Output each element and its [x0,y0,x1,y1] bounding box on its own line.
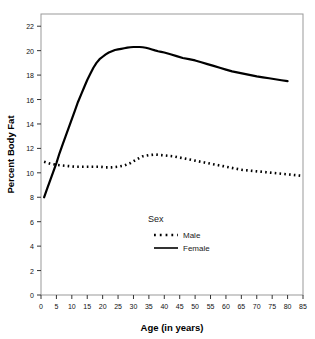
percent-body-fat-chart: 0510152025303540455055606570758085024681… [0,0,315,339]
x-tick-label: 30 [130,303,138,310]
y-tick-label: 6 [30,219,34,226]
x-tick-label: 5 [54,303,58,310]
y-tick-label: 10 [26,170,34,177]
x-tick-label: 70 [253,303,261,310]
y-tick-label: 22 [26,23,34,30]
legend-title: Sex [148,214,164,224]
y-tick-label: 12 [26,145,34,152]
x-tick-label: 15 [83,303,91,310]
y-tick-label: 8 [30,194,34,201]
series-line-female [44,47,288,197]
y-tick-label: 0 [30,292,34,299]
plot-frame [41,14,303,295]
x-tick-label: 35 [145,303,153,310]
x-tick-label: 55 [207,303,215,310]
y-tick-label: 16 [26,97,34,104]
y-tick-label: 20 [26,48,34,55]
x-axis-title: Age (in years) [141,322,204,333]
x-tick-label: 20 [99,303,107,310]
x-tick-label: 65 [237,303,245,310]
y-axis-title: Percent Body Fat [5,115,16,194]
legend-label-male: Male [183,231,201,240]
x-tick-label: 60 [222,303,230,310]
y-tick-label: 2 [30,268,34,275]
legend-label-female: Female [183,244,210,253]
y-tick-label: 4 [30,243,34,250]
x-tick-label: 25 [114,303,122,310]
y-tick-label: 14 [26,121,34,128]
x-tick-label: 80 [284,303,292,310]
x-tick-label: 45 [176,303,184,310]
x-tick-label: 40 [160,303,168,310]
x-tick-label: 75 [268,303,276,310]
x-tick-label: 0 [39,303,43,310]
y-tick-label: 18 [26,72,34,79]
chart-canvas: 0510152025303540455055606570758085024681… [0,0,315,339]
x-tick-label: 50 [191,303,199,310]
series-line-male [44,155,303,176]
x-tick-label: 10 [68,303,76,310]
x-tick-label: 85 [299,303,307,310]
